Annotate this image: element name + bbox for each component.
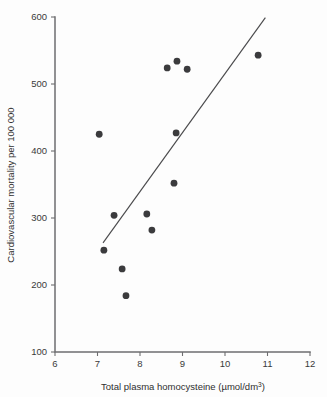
regression-line (103, 18, 265, 243)
x-tick-label: 12 (305, 358, 316, 369)
plot-canvas: 100200300400500600 6789101112 Cardiovasc… (0, 0, 327, 397)
data-point (100, 247, 107, 254)
x-axis-tick-labels: 6789101112 (52, 358, 315, 369)
axis-lines (55, 17, 310, 352)
y-tick-label: 600 (31, 11, 47, 22)
data-points (96, 52, 262, 299)
data-point (184, 66, 191, 73)
data-point (164, 65, 171, 72)
y-tick-label: 400 (31, 145, 47, 156)
x-tick-label: 7 (95, 358, 100, 369)
data-point (119, 266, 126, 273)
y-tick-label: 200 (31, 279, 47, 290)
data-point (143, 211, 150, 218)
data-point (173, 130, 180, 137)
data-point (174, 58, 181, 65)
x-tick-label: 8 (137, 358, 142, 369)
y-axis-tick-labels: 100200300400500600 (31, 11, 47, 357)
data-point (111, 212, 118, 219)
x-tick-label: 6 (52, 358, 57, 369)
x-tick-label: 11 (263, 358, 273, 369)
x-tick-label: 10 (220, 358, 231, 369)
y-tick-label: 500 (31, 78, 47, 89)
data-point (149, 227, 156, 234)
x-axis-label: Total plasma homocysteine (µmol/dm3) (101, 381, 265, 393)
data-point (171, 180, 178, 187)
y-axis-label: Cardiovascular mortality per 100 000 (5, 107, 16, 262)
scatter-plot-figure: 100200300400500600 6789101112 Cardiovasc… (0, 0, 327, 397)
data-point (255, 52, 262, 59)
data-point (96, 131, 103, 138)
y-tick-label: 100 (31, 346, 47, 357)
y-tick-label: 300 (31, 212, 47, 223)
data-point (123, 292, 130, 299)
x-tick-label: 9 (180, 358, 185, 369)
